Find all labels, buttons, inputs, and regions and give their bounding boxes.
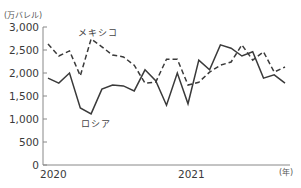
x-tick-label: 2021 [178, 168, 205, 180]
y-tick-label: 1,500 [9, 90, 39, 102]
y-tick-label: 1,000 [9, 113, 39, 125]
series-line-mexico [48, 39, 285, 85]
series-label-russia: ロシア [81, 119, 111, 129]
y-axis-unit: (万バレル) [4, 11, 42, 20]
y-tick-label: 3,000 [9, 21, 39, 33]
x-axis: 20202021 [40, 165, 290, 180]
y-tick-label: 2,000 [9, 67, 39, 79]
y-tick-label: 2,500 [9, 44, 39, 56]
y-axis: 05001,0001,5002,0002,5003,000 [9, 21, 47, 171]
series-lines [48, 39, 285, 114]
x-axis-unit: (年) [279, 167, 293, 177]
y-tick-label: 0 [32, 159, 39, 171]
y-tick-label: 500 [19, 136, 39, 148]
x-tick-label: 2020 [40, 168, 67, 180]
series-label-mexico: メキシコ [78, 28, 118, 38]
line-chart: (万バレル) 05001,0001,5002,0002,5003,000 202… [0, 0, 301, 188]
